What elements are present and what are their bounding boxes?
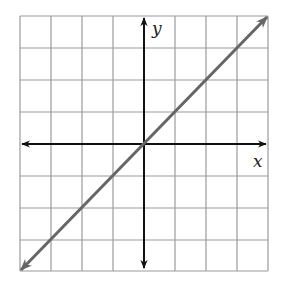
x-axis-label: x xyxy=(253,151,263,171)
y-axis-label: y xyxy=(151,18,162,38)
coordinate-plane: y x xyxy=(0,0,283,297)
